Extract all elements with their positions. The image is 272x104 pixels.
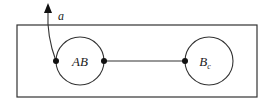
arrow-label-a: a bbox=[58, 9, 64, 23]
node-ab-label: AB bbox=[71, 54, 88, 69]
diagram-canvas: AB Bc a bbox=[0, 0, 272, 104]
node-bc-label-sub: c bbox=[207, 62, 211, 71]
node-bc bbox=[185, 37, 233, 85]
port-dot-ab-left bbox=[53, 58, 59, 64]
port-dot-ab-right bbox=[101, 58, 107, 64]
node-bc-label: Bc bbox=[199, 54, 211, 71]
port-dot-bc-left bbox=[182, 58, 188, 64]
node-bc-label-main: B bbox=[199, 54, 207, 69]
external-arrow-a bbox=[48, 12, 56, 61]
arrowhead-icon bbox=[44, 3, 52, 13]
